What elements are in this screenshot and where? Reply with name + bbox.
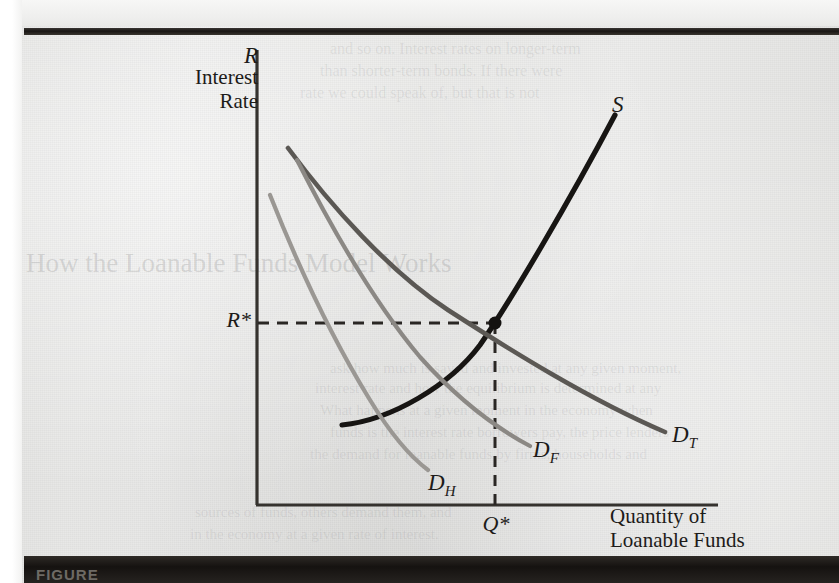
- chart-axes: [256, 50, 718, 505]
- x-axis-title-line: Quantity of: [610, 505, 830, 529]
- y-axis-title-line: Interest: [160, 66, 258, 90]
- x-axis-title: Quantity ofLoanable Funds: [610, 505, 830, 552]
- loanable-funds-chart: [0, 0, 839, 583]
- curve-s: [342, 115, 615, 425]
- equilibrium-rate-label: R*: [205, 308, 251, 333]
- equilibrium-point: [489, 317, 502, 330]
- curve-label-text: D: [428, 470, 445, 495]
- equilibrium-dot: [489, 317, 502, 330]
- x-axis-title-line: Loanable Funds: [610, 529, 830, 553]
- curve-label-subscript: F: [550, 450, 559, 466]
- curve-label-subscript: H: [445, 483, 456, 499]
- curve-label-supply: S: [612, 92, 624, 118]
- equilibrium-quantity-label: Q*: [466, 512, 526, 537]
- curve-label-firm-demand: DF: [533, 437, 559, 467]
- curve-label-text: D: [533, 437, 550, 462]
- y-axis-title-line: Rate: [160, 90, 258, 114]
- curve-label-text: D: [672, 422, 689, 447]
- curve-d-t: [288, 148, 665, 432]
- chart-curves: [270, 115, 665, 470]
- y-axis-title: InterestRate: [160, 66, 258, 113]
- figure-page: the nominal rate — so is very unlikelylo…: [0, 0, 839, 583]
- curve-label-subscript: T: [689, 435, 697, 451]
- curve-label-household-demand: DH: [428, 470, 455, 500]
- curve-d-h: [270, 195, 428, 470]
- curve-label-total-demand: DT: [672, 422, 697, 452]
